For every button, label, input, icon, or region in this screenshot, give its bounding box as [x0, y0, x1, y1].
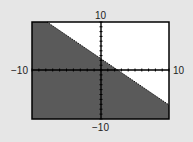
y-max-label: 10	[95, 11, 106, 21]
y-min-label: −10	[92, 123, 109, 133]
graph	[0, 0, 193, 142]
x-min-label: −10	[11, 66, 28, 76]
x-max-label: 10	[173, 66, 184, 76]
